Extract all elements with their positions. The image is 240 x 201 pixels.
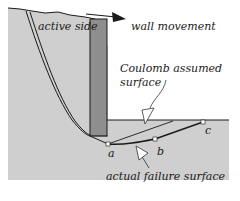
retaining-wall-diagram: active side wall movement Coulomb assume… bbox=[0, 0, 240, 201]
label-coulomb-line1: Coulomb assumed bbox=[120, 62, 222, 75]
label-actual-failure: actual failure surface bbox=[106, 170, 226, 183]
point-a-marker bbox=[106, 142, 110, 146]
retaining-wall bbox=[90, 19, 107, 136]
label-wall-movement: wall movement bbox=[131, 20, 216, 33]
soil-mass bbox=[8, 8, 229, 180]
label-coulomb-line2: surface bbox=[120, 76, 162, 89]
point-b-marker bbox=[153, 137, 157, 141]
wall-movement-arrow-shaft bbox=[86, 14, 116, 17]
label-point-b: b bbox=[157, 145, 164, 158]
label-point-a: a bbox=[108, 147, 115, 160]
label-point-c: c bbox=[205, 124, 211, 137]
label-active-side: active side bbox=[38, 20, 98, 33]
wall-movement-arrow-head bbox=[112, 12, 126, 22]
